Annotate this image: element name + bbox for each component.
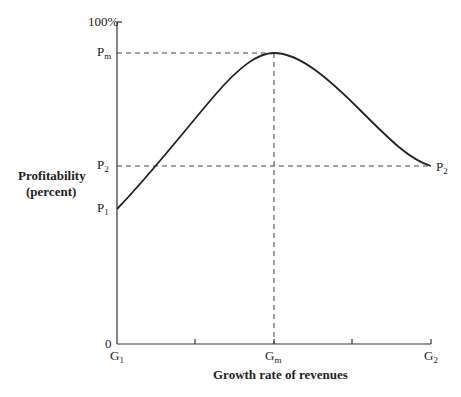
y-axis-title-line2: (percent) xyxy=(26,185,76,199)
x-tick-g1: G1 xyxy=(110,349,124,367)
x-tick-g2: G2 xyxy=(424,349,438,367)
y-tick-p1: P1 xyxy=(97,201,109,219)
y-axis-title-line1: Profitability xyxy=(18,169,86,183)
x-axis-title: Growth rate of revenues xyxy=(213,368,348,382)
y-tick-p2: P2 xyxy=(97,158,109,176)
x-tick-gm: Gm xyxy=(265,349,281,367)
y-tick-100: 100% xyxy=(88,15,118,29)
y-tick-pm: Pm xyxy=(97,45,111,63)
profitability-curve xyxy=(117,53,431,209)
p2-endpoint-label: P2 xyxy=(436,160,448,178)
